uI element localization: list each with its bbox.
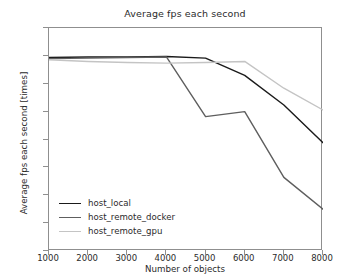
page-title: Average fps each second xyxy=(48,8,322,19)
legend-swatch-icon xyxy=(59,203,81,204)
x-tick-label: 8000 xyxy=(299,253,339,263)
series-line-host-local xyxy=(49,56,323,142)
series-line-host-remote-gpu xyxy=(49,60,323,110)
series-line-host-remote-docker xyxy=(49,57,323,209)
legend-swatch-icon xyxy=(59,231,81,232)
legend-item-host-remote-gpu[interactable]: host_remote_gpu xyxy=(59,224,175,238)
legend-swatch-icon xyxy=(59,217,81,218)
x-axis-label: Number of objects xyxy=(48,264,322,274)
chart-legend: host_localhost_remote_dockerhost_remote_… xyxy=(57,195,177,239)
chart-figure: Average fps each second 1520253035404550… xyxy=(0,0,339,279)
legend-item-host-remote-docker[interactable]: host_remote_docker xyxy=(59,210,175,224)
legend-item-label: host_remote_docker xyxy=(88,212,175,222)
y-axis-label: Average fps each second [times] xyxy=(19,32,29,255)
legend-item-label: host_remote_gpu xyxy=(88,226,162,236)
legend-item-host-local[interactable]: host_local xyxy=(59,196,175,210)
legend-item-label: host_local xyxy=(88,198,131,208)
